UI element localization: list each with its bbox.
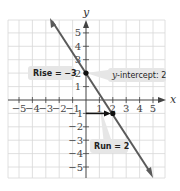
y-intercept-point [83,71,88,76]
y-tick-label: −4 [68,148,83,159]
y-tick-label: −1 [68,108,83,119]
coordinate-graph: −5 −4 −3 −2 −1 1 2 3 4 5 1 2 3 4 5 −1 −2… [0,0,180,191]
rise-label: Rise = −3 [33,69,77,78]
y-tick-label: 5 [75,27,81,38]
y-axis-arrow-icon [83,20,89,28]
y-intercept-callout: y-intercept: 2 [108,68,166,82]
run-label: Run = 2 [94,142,129,151]
x-axis-label: x [170,93,177,106]
y-tick-label: −3 [68,135,83,146]
y-tick-label: 4 [75,41,81,52]
y-tick-label: 1 [75,81,81,92]
x-tick-labels: −5 −4 −3 −2 −1 1 2 3 4 5 [12,103,157,114]
x-tick-label: 3 [123,103,129,114]
y-axis [83,20,89,178]
y-tick-label: −2 [68,121,83,132]
y-intercept-text: -intercept: 2 [117,71,166,80]
y-intercept-label: y-intercept: 2 [111,70,166,80]
x-tick-label: 5 [150,103,156,114]
x-tick-label: 4 [136,103,142,114]
y-tick-label: −5 [68,162,83,173]
second-point [110,111,115,116]
rise-callout: Rise = −3 [28,66,77,80]
y-axis-label: y [82,6,90,19]
run-callout: Run = 2 [90,139,129,153]
